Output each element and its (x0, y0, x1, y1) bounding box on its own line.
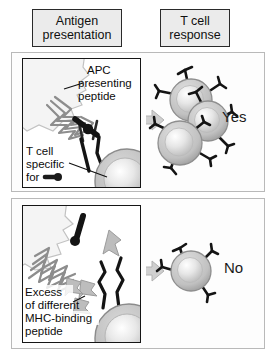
column-header-antigen-line2: presentation (43, 28, 112, 42)
apc-cell-icon (23, 206, 73, 270)
verdict-yes: Yes (222, 108, 246, 125)
label-apc-line2: presenting (78, 77, 132, 89)
column-header-tcell-line2: response (169, 28, 220, 42)
response-excess-peptide: No (146, 205, 256, 341)
peptide-bound-head (83, 124, 93, 134)
response-specific-peptide: Yes (146, 58, 256, 186)
label-excess-line1: Excess (25, 286, 62, 298)
diagram-specific-presentation: APC presenting peptide T cell specific f… (23, 59, 140, 187)
peptide-swatch-icon (45, 173, 62, 181)
label-tcell-line3: for (26, 171, 40, 183)
column-header-antigen-line1: Antigen (43, 14, 112, 28)
peptide-dark-free-icon (70, 216, 83, 246)
column-header-antigen-presentation: Antigen presentation (32, 9, 122, 47)
t-cell-receptor-icon (99, 258, 123, 308)
peptide-gray-free-icon-1 (103, 230, 121, 256)
peptide-gray-free-icon-2 (79, 280, 97, 298)
column-header-t-cell-response: T cell response (160, 9, 230, 47)
label-apc-line3: peptide (78, 90, 116, 102)
panel-antigen-presentation-specific: APC presenting peptide T cell specific f… (22, 58, 141, 188)
figure-root: Antigen presentation T cell response (0, 0, 275, 357)
label-tcell-line1: T cell (26, 145, 53, 157)
label-excess-line2: of different (25, 299, 80, 311)
verdict-no: No (224, 259, 243, 276)
t-cell-resting (157, 244, 218, 302)
label-tcell-line2: specific (26, 158, 65, 170)
column-header-tcell-line1: T cell (169, 14, 220, 28)
label-excess-line4: peptide (25, 325, 63, 337)
diagram-excess-peptide: Excess of different MHC-binding peptide (23, 206, 140, 342)
label-excess-line3: MHC-binding (25, 312, 92, 324)
panel-antigen-presentation-excess: Excess of different MHC-binding peptide (22, 205, 141, 343)
label-apc-line1: APC (87, 64, 111, 76)
